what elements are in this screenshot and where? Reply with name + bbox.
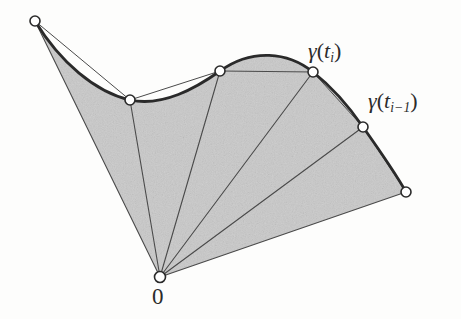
vertex-marker-p5 [401,187,411,197]
vertex-marker-origin [155,272,166,283]
paren-close: ) [334,38,341,63]
vertex-marker-gamma-ti [308,67,318,77]
figure-container: γ(ti) γ(ti−1) 0 [0,0,461,319]
paren-open: ( [317,38,324,63]
curve-sector-diagram [0,0,461,319]
label-gamma-ti-minus-1: γ(ti−1) [368,90,418,114]
shaded-sector-group [35,21,406,277]
label-gamma-ti: γ(ti) [308,40,341,64]
subscript-index: i−1 [390,100,410,115]
vertex-marker-p1 [125,95,135,105]
shaded-sector [35,21,406,277]
gamma-glyph: γ [308,38,317,63]
gamma-glyph: γ [368,88,377,113]
label-origin: 0 [152,285,164,308]
paren-close: ) [410,88,417,113]
vertex-marker-p2 [215,66,225,76]
vertex-marker-p0 [30,16,40,26]
paren-open: ( [377,88,384,113]
vertex-marker-gamma-ti-minus-1 [358,122,368,132]
